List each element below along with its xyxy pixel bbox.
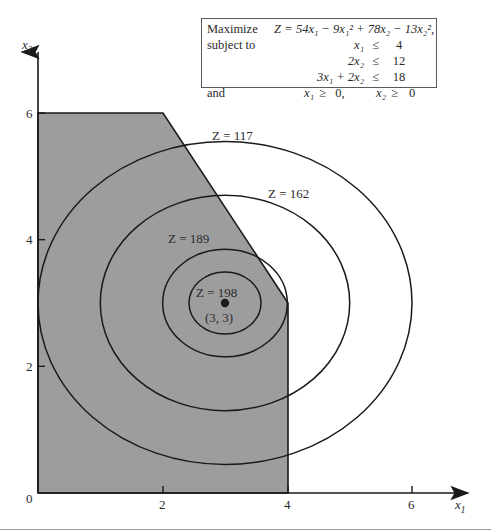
constraint-3-lhs: 3x₁ + 2x₂ xyxy=(284,69,364,85)
nlp-graphical-solution-figure: x2 x1 6 4 2 0 2 4 6 Z = 117 Z = 162 Z = … xyxy=(0,0,491,530)
objective-equals: = xyxy=(285,22,292,36)
nonneg-1-rhs: 0, xyxy=(331,85,349,101)
maximize-label: Maximize xyxy=(207,21,258,37)
model-row-constraint-2: 2x₂ ≤ 12 xyxy=(202,53,436,69)
objective-z: Z xyxy=(274,22,281,36)
objective-terms: 54x₁ − 9x₁² + 78x₂ − 13x₂², xyxy=(296,22,434,36)
constraint-3-rel: ≤ xyxy=(368,69,384,85)
contour-label-z117: Z = 117 xyxy=(212,128,253,144)
constraint-1-rel: ≤ xyxy=(368,37,384,53)
model-row-constraint-1: subject to x₁ ≤ 4 xyxy=(202,37,436,53)
and-label: and xyxy=(207,85,225,101)
contour-label-z189: Z = 189 xyxy=(168,231,209,247)
y-tick-label-4: 4 xyxy=(26,232,33,248)
constraint-1-lhs: x₁ xyxy=(298,37,364,53)
y-tick-label-2: 2 xyxy=(26,359,33,375)
objective-expression: Z=54x₁ − 9x₁² + 78x₂ − 13x₂², xyxy=(274,21,434,37)
x-tick-label-2: 2 xyxy=(159,497,166,513)
nonneg-2-rhs: 0 xyxy=(403,85,421,101)
contour-label-z162: Z = 162 xyxy=(268,186,309,202)
y-tick-label-0: 0 xyxy=(26,491,33,507)
optimum-point-label: (3, 3) xyxy=(205,310,233,326)
constraint-2-lhs: 2x₂ xyxy=(298,53,364,69)
model-formulation-box: Maximize Z=54x₁ − 9x₁² + 78x₂ − 13x₂², s… xyxy=(201,18,437,88)
model-row-objective: Maximize Z=54x₁ − 9x₁² + 78x₂ − 13x₂², xyxy=(202,21,436,37)
nonneg-2-lhs: x₂ xyxy=(360,85,386,101)
constraint-1-rhs: 4 xyxy=(388,37,410,53)
nonneg-2-rel: ≥ xyxy=(388,85,402,101)
model-row-constraint-3: 3x₁ + 2x₂ ≤ 18 xyxy=(202,69,436,85)
constraint-2-rhs: 12 xyxy=(388,53,410,69)
nonneg-1-rel: ≥ xyxy=(316,85,330,101)
y-axis-label: x2 xyxy=(22,37,32,55)
contour-label-z198: Z = 198 xyxy=(196,285,237,301)
x-tick-label-6: 6 xyxy=(408,497,415,513)
nonneg-1-lhs: x₁ xyxy=(288,85,314,101)
model-row-nonnegativity: and x₁ ≥ 0, x₂ ≥ 0 xyxy=(202,85,436,101)
subject-to-label: subject to xyxy=(207,37,255,53)
x-axis-label: x1 xyxy=(455,497,465,515)
y-tick-label-6: 6 xyxy=(26,106,33,122)
x-tick-label-4: 4 xyxy=(284,497,291,513)
constraint-3-rhs: 18 xyxy=(388,69,410,85)
constraint-2-rel: ≤ xyxy=(368,53,384,69)
